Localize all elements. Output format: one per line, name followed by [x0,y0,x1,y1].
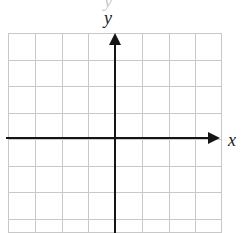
y-axis-line [114,38,116,233]
y-axis-arrowhead-icon [109,33,121,45]
x-axis-line [6,137,211,139]
grid-line-vertical [35,33,36,233]
x-axis-label: x [228,131,236,149]
grid-line-vertical [221,33,222,233]
grid-line-vertical [62,33,63,233]
grid-line-vertical [195,33,196,233]
y-axis-label: y [104,9,112,27]
grid-line-vertical [88,33,89,233]
grid-line-vertical [169,33,170,233]
grid-line-vertical [8,33,9,233]
coordinate-plane-figure: y y x [0,0,245,233]
x-axis-arrowhead-icon [208,132,220,144]
grid-line-vertical [142,33,143,233]
